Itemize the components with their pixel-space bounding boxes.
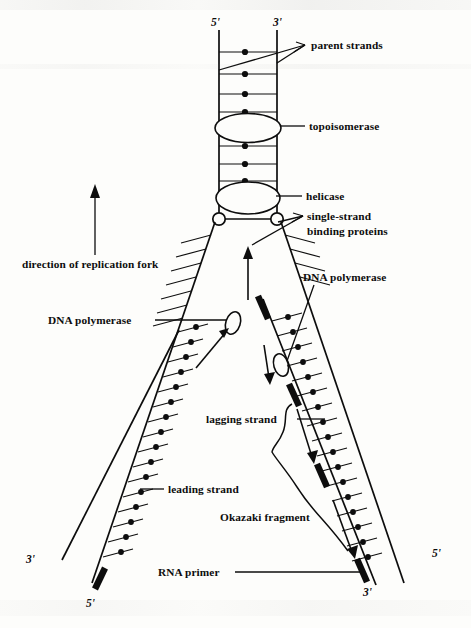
helicase-icon [216,182,280,214]
fork-direction-arrow-icon [243,246,253,300]
label-lagging-strand: lagging strand [206,413,277,425]
leader-parent-arrowA [296,42,305,45]
leading-strand-arm [62,222,243,589]
leading-synthesis-arrow-icon [196,328,229,368]
rna-primer-lagging-4-icon [357,559,367,582]
label-leading-strand: leading strand [168,483,239,495]
label-okazaki-fragment: Okazaki fragment [220,511,310,523]
label-lagging-bottom-outer: 5' [432,547,441,559]
label-leading-bottom-inner: 5' [86,597,95,609]
label-direction-of-replication-fork: direction of replication fork [22,258,159,270]
label-parent-top-left: 5' [211,16,220,28]
leader-parent-left [219,45,305,70]
leader-direction-head [90,184,100,198]
label-lagging-bottom-inner: 3' [362,586,372,598]
leader-polymerase-right [287,285,314,361]
lagging-new-strand [263,299,376,585]
label-ssb-line2: binding proteins [307,225,388,237]
diagram-canvas: parent strands topoisomerase helicase si… [0,0,471,628]
leading-unpaired-ticks [153,235,211,326]
label-parent-strands: parent strands [311,39,383,51]
topoisomerase-icon [215,114,281,143]
rna-primer-lagging-3-icon [317,464,327,487]
parent-duplex [215,30,281,219]
parent-rungs-upper [219,49,277,115]
label-parent-top-right: 3' [272,16,282,28]
parent-rungs-lower [219,143,277,184]
label-dna-polymerase-right: DNA polymerase [303,271,386,283]
label-dna-polymerase-left: DNA polymerase [48,314,131,326]
label-leading-bottom-outer: 3' [25,553,35,565]
label-helicase: helicase [306,190,344,202]
leader-ssb-arrowA [293,213,303,216]
label-topoisomerase: topoisomerase [309,120,379,132]
label-rna-primer: RNA primer [158,566,220,578]
leading-rungs [103,324,208,557]
rna-primer-lagging-1-icon [258,296,268,319]
label-ssb-line1: single-strand [307,210,372,222]
leading-template-strand [92,222,215,583]
lagging-synthesis-arrow-2-icon [297,409,318,464]
dna-replication-fork-figure: parent strands topoisomerase helicase si… [0,0,471,628]
okazaki-brace-icon [272,404,348,551]
